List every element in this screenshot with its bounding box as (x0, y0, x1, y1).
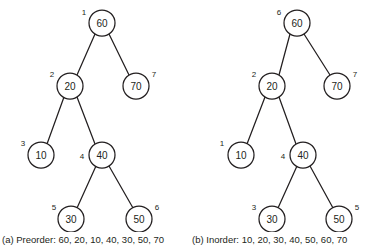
tree-edge (278, 166, 297, 208)
tree-node-value: 20 (64, 81, 76, 92)
tree-node: 305 (52, 203, 84, 233)
figure-panel-preorder: 601202707103404305506 (a) Preorder: 60, … (0, 0, 188, 250)
tree-node-value: 40 (96, 150, 108, 161)
tree-edge (77, 97, 95, 144)
tree-node-visit-order: 7 (152, 70, 157, 79)
tree-node: 101 (220, 139, 254, 169)
tree-diagram-inorder: 606202707101404303505 (188, 0, 376, 232)
tree-node-visit-order: 1 (220, 139, 225, 148)
tree-node-value: 10 (35, 150, 47, 161)
binary-tree-traversal-figure: 601202707103404305506 (a) Preorder: 60, … (0, 0, 376, 250)
tree-node-visit-order: 1 (82, 8, 87, 17)
tree-edge (77, 166, 96, 208)
tree-node-visit-order: 5 (355, 203, 360, 212)
tree-node-value: 30 (266, 214, 278, 225)
tree-node-value: 30 (65, 214, 77, 225)
tree-node-visit-order: 3 (252, 203, 257, 212)
tree-edge (279, 34, 290, 75)
tree-node-visit-order: 4 (281, 152, 286, 161)
tree-edge (279, 97, 296, 144)
tree-node-visit-order: 6 (277, 8, 282, 17)
tree-edge (47, 97, 64, 144)
figure-panel-inorder: 606202707101404303505 (b) Inorder: 10, 2… (188, 0, 376, 250)
tree-node-value: 60 (291, 18, 303, 29)
tree-node-visit-order: 2 (50, 70, 55, 79)
tree-node-value: 60 (96, 18, 108, 29)
figure-caption-inorder: (b) Inorder: 10, 20, 30, 40, 50, 60, 70 (192, 233, 376, 246)
tree-node: 202 (252, 70, 285, 100)
tree-node: 404 (80, 142, 115, 168)
tree-node: 404 (281, 142, 316, 168)
tree-node-value: 50 (333, 214, 345, 225)
tree-node-value: 50 (133, 214, 145, 225)
figure-caption-preorder: (a) Preorder: 60, 20, 10, 40, 30, 50, 70 (2, 233, 188, 246)
tree-node-visit-order: 3 (21, 139, 26, 148)
tree-node: 103 (21, 139, 54, 169)
tree-node-visit-order: 6 (155, 203, 160, 212)
tree-edge (77, 34, 95, 75)
tree-node: 506 (126, 203, 160, 233)
tree-node-visit-order: 5 (52, 203, 57, 212)
tree-node: 601 (82, 8, 115, 37)
tree-node: 606 (277, 8, 310, 37)
tree-edge (247, 97, 265, 144)
tree-node-value: 40 (297, 150, 309, 161)
tree-node-value: 70 (130, 81, 142, 92)
tree-node-visit-order: 7 (353, 70, 358, 79)
tree-edge (304, 34, 330, 75)
tree-edge (310, 166, 333, 208)
tree-node: 505 (326, 203, 360, 233)
tree-node: 303 (252, 203, 285, 233)
tree-edge (109, 166, 133, 208)
tree-node-value: 10 (235, 150, 247, 161)
tree-edge (109, 34, 129, 75)
tree-node-value: 20 (266, 81, 278, 92)
tree-node-visit-order: 2 (252, 70, 257, 79)
tree-diagram-preorder: 601202707103404305506 (0, 0, 188, 232)
tree-node-value: 70 (331, 81, 343, 92)
tree-node-visit-order: 4 (80, 152, 85, 161)
